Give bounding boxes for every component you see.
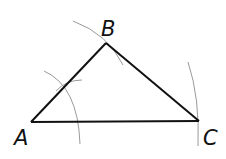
triangle-construction-diagram: A B C [0,0,226,159]
side-ac [31,121,199,122]
vertex-label-a: A [12,126,28,150]
vertex-label-c: C [203,126,218,150]
vertex-label-b: B [101,17,115,41]
arc-near-c [188,62,198,146]
side-bc [106,43,199,121]
side-ab [31,43,106,122]
arc-near-b [73,21,123,65]
arc-around-a [44,71,80,144]
